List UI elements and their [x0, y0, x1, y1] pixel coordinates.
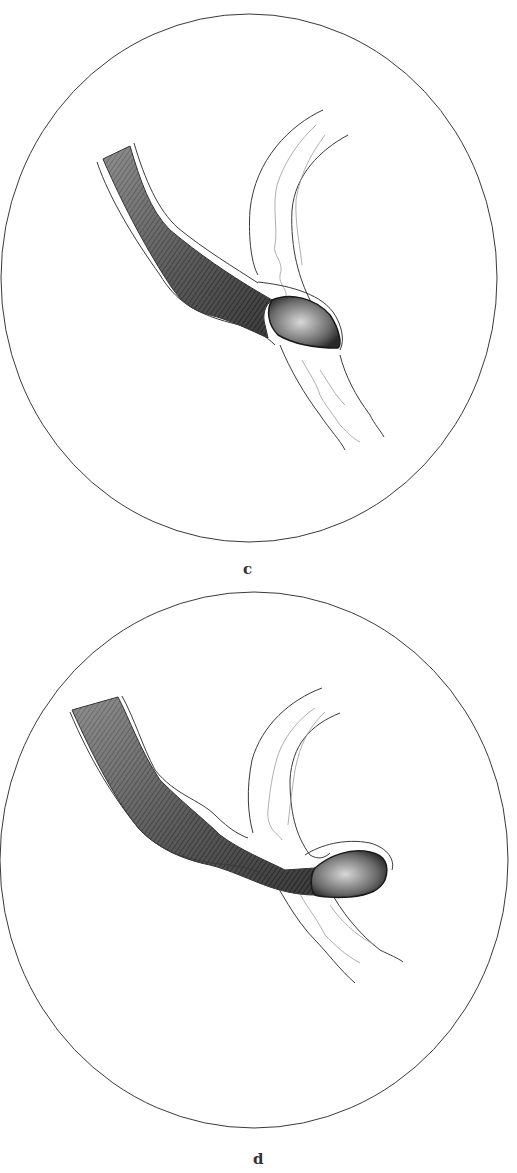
panel-d-branch-inner: [268, 708, 375, 963]
panel-c-branch-inner: [275, 125, 360, 442]
panel-d: [0, 592, 508, 1128]
panel-c-nodule: [269, 296, 340, 348]
panel-c-branch: [249, 110, 384, 450]
panel-c-circle: [1, 14, 497, 542]
panel-label-c: c: [243, 562, 252, 577]
panel-d-branch: [248, 688, 403, 983]
panel-label-d: d: [253, 1152, 264, 1167]
panel-c: [1, 14, 497, 542]
figure-illustration: [0, 0, 517, 1173]
panel-d-dark-tube-hatch: [72, 697, 315, 895]
panel-c-dark-tube-hatch: [103, 146, 272, 338]
